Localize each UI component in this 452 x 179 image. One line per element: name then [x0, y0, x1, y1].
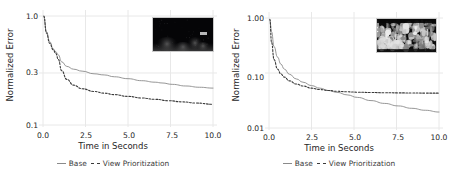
inset-thumbnail-bright	[376, 18, 437, 53]
inset-canvas-bright	[377, 19, 436, 52]
legend-solid-line-icon	[57, 163, 66, 164]
x-axis-label-right: Time in Seconds	[226, 143, 452, 153]
legend-right: Base View Prioritization	[226, 159, 452, 168]
x-tick-right-4: 10.0	[431, 133, 448, 142]
legend-solid-line-icon	[283, 163, 292, 164]
legend-left: Base View Prioritization	[0, 159, 226, 168]
legend-label-viewprior-right: View Prioritization	[329, 159, 395, 168]
x-tick-right-1: 2.5	[306, 133, 318, 142]
legend-item-base-left: Base	[57, 159, 87, 168]
legend-item-viewprior-right: View Prioritization	[317, 159, 395, 168]
chart-panel-right: Normalized Error 1.00 0.10 0.01 0.0 2.5 …	[226, 0, 452, 179]
chart-panel-left: Normalized Error 1.0 0.3 0.1 0.0 2.5 5.0…	[0, 0, 226, 179]
legend-dashed-line-icon	[317, 163, 326, 164]
legend-label-base-left: Base	[69, 159, 87, 168]
legend-label-base-right: Base	[295, 159, 313, 168]
x-tick-right-0: 0.0	[263, 133, 275, 142]
legend-item-base-right: Base	[283, 159, 313, 168]
x-tick-left-0: 0.0	[37, 131, 49, 140]
x-tick-right-3: 7.5	[392, 133, 404, 142]
figure-two-panel-line-charts: Normalized Error 1.0 0.3 0.1 0.0 2.5 5.0…	[0, 0, 452, 179]
x-tick-left-4: 10.0	[205, 131, 222, 140]
x-tick-left-2: 5.0	[123, 131, 135, 140]
inset-canvas-dark	[153, 18, 213, 51]
legend-item-viewprior-left: View Prioritization	[91, 159, 169, 168]
x-tick-right-2: 5.0	[349, 133, 361, 142]
legend-dashed-line-icon	[91, 163, 100, 164]
x-tick-left-3: 7.5	[166, 131, 178, 140]
legend-label-viewprior-left: View Prioritization	[103, 159, 169, 168]
x-tick-left-1: 2.5	[80, 131, 92, 140]
x-axis-label-left: Time in Seconds	[0, 141, 226, 151]
inset-thumbnail-dark	[152, 17, 214, 52]
